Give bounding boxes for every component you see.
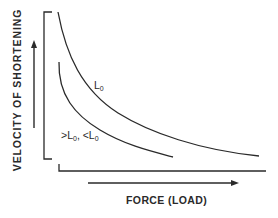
y-axis-line xyxy=(44,12,52,159)
diagram-canvas xyxy=(0,0,278,218)
curve-label-l0: L0 xyxy=(94,79,104,92)
x-arrow-head-icon xyxy=(231,180,239,186)
label-text: <L xyxy=(83,129,95,141)
y-arrow-head-icon xyxy=(31,40,37,48)
curve-label-other-lengths: >L0, <L0 xyxy=(61,129,99,142)
x-axis-label: FORCE (LOAD) xyxy=(126,194,207,206)
x-axis-line xyxy=(59,164,266,171)
label-subscript: 0 xyxy=(100,85,104,92)
y-axis-label: VELOCITY OF SHORTENING xyxy=(11,9,23,172)
label-text: >L xyxy=(61,129,73,141)
curve-other-lengths xyxy=(59,62,173,157)
label-subscript: 0 xyxy=(95,135,99,142)
